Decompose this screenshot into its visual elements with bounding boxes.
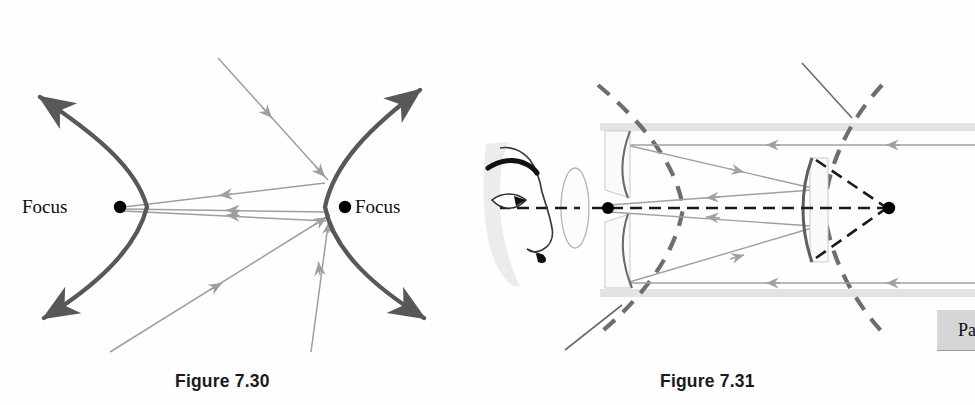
focus-label-right: Focus [355,196,400,218]
primary-mirror-lower-body [605,214,630,288]
reflected-ray-lower [124,211,326,221]
focus-dot-eyepiece-731 [602,202,614,214]
figure-page: Focus Focus [0,0,975,405]
hyperbola-callout-leader [802,63,852,118]
converging-ray-upper [626,145,812,188]
focus-dot-left-730 [114,201,126,213]
eye-face-illustration [484,142,553,286]
focus-label-left: Focus [22,196,67,218]
converging-ray-lower [626,228,812,283]
figure-730: Focus Focus [0,0,490,405]
callout-parabola: Parabola [937,310,975,351]
incoming-ray-bottom [311,218,329,352]
secondary-mirror-group [803,158,828,262]
reflected-rays-group [124,183,328,221]
return-ray-lower-arrow [706,217,720,218]
incoming-ray-top [218,58,328,180]
converging-ray-lower-arrow [730,255,744,259]
callout-parabola-label: Parabola [958,320,975,341]
return-ray-lower [610,212,812,226]
focus-dot-far-731 [883,202,895,214]
figure-731-drawing [480,0,975,405]
figure-731-caption: Figure 7.31 [660,371,755,392]
figure-730-drawing [0,0,490,405]
converging-ray-upper-arrow [730,169,744,172]
incoming-ray-bottomleft-arrow-mid [210,283,222,290]
nostril [536,254,546,263]
incoming-ray-bottom-arrow-mid [318,262,320,275]
parabola-callout-leader [565,305,622,350]
focus-dot-right-730 [339,201,351,213]
figure-730-caption: Figure 7.30 [175,371,270,392]
incoming-ray-top-arrow-mid [262,107,272,118]
reflected-ray-upper-arrow [219,194,232,196]
return-ray-upper-arrow [706,197,720,198]
telescope-tube-top [600,123,975,131]
reflected-ray-lower-arrow [226,215,240,216]
figure-731: Focus Hyperbola Parabola [480,0,975,405]
secondary-mirror-body [810,158,828,262]
incoming-ray-top-arrow-end [315,166,325,177]
telescope-tube-bottom [600,289,975,297]
